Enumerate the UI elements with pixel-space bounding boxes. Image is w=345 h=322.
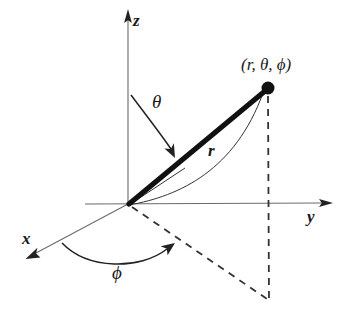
x-axis [26, 204, 129, 259]
phi-angle-label: ϕ [112, 263, 122, 282]
diagram-canvas [0, 0, 345, 322]
coordinate-point-dot [262, 82, 275, 95]
spherical-coordinates-diagram: z y x r θ ϕ (r, θ, ϕ) [0, 0, 345, 322]
azimuthal-projection-dashed-line [132, 207, 270, 301]
radius-vector [129, 91, 265, 204]
theta-arc-path [131, 95, 171, 149]
theta-angle-label: θ [152, 92, 161, 111]
y-axis-line [85, 203, 322, 204]
point-coordinates-label: (r, θ, ϕ) [241, 56, 291, 73]
y-axis [85, 199, 333, 207]
theta-arc-arrowhead [164, 143, 175, 158]
x-axis-label: x [22, 230, 31, 247]
phi-arc-path [62, 243, 167, 264]
x-axis-line [36, 204, 128, 253]
x-axis-arrowhead [26, 248, 41, 259]
vertical-drop-dashed-line [268, 96, 269, 303]
y-axis-label: y [307, 208, 315, 225]
radius-label: r [208, 142, 215, 159]
z-axis-label: z [133, 12, 140, 29]
phi-angle-arc [62, 243, 175, 264]
z-axis [124, 9, 132, 204]
phi-arc-arrowhead [161, 243, 175, 255]
